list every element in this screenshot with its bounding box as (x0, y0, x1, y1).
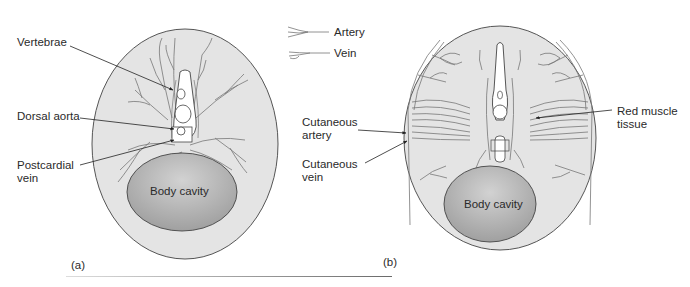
bottom-divider (66, 276, 392, 277)
artery-line-icon (288, 27, 329, 37)
vein-line-icon (289, 52, 330, 59)
diagram-canvas (0, 0, 690, 287)
panel-b-label: (b) (383, 256, 397, 268)
legend-artery-label: Artery (334, 26, 365, 39)
legend-vein-label: Vein (334, 47, 356, 60)
label-body-cavity-b: Body cavity (464, 198, 523, 211)
panel-a-label: (a) (71, 259, 85, 271)
label-dorsal-aorta: Dorsal aorta (17, 110, 80, 123)
label-red-muscle-tissue: Red muscle tissue (617, 105, 678, 131)
dorsal-aorta-shape (177, 127, 185, 135)
legend (288, 27, 330, 59)
label-vertebrae: Vertebrae (17, 36, 67, 49)
panel-a-cross-section (70, 29, 278, 259)
label-postcardial-vein: Postcardial vein (17, 159, 74, 185)
label-body-cavity-a: Body cavity (150, 185, 209, 198)
label-cutaneous-vein: Cutaneous vein (302, 158, 358, 184)
panel-b-cross-section (358, 26, 612, 250)
label-cutaneous-artery: Cutaneous artery (302, 116, 358, 142)
